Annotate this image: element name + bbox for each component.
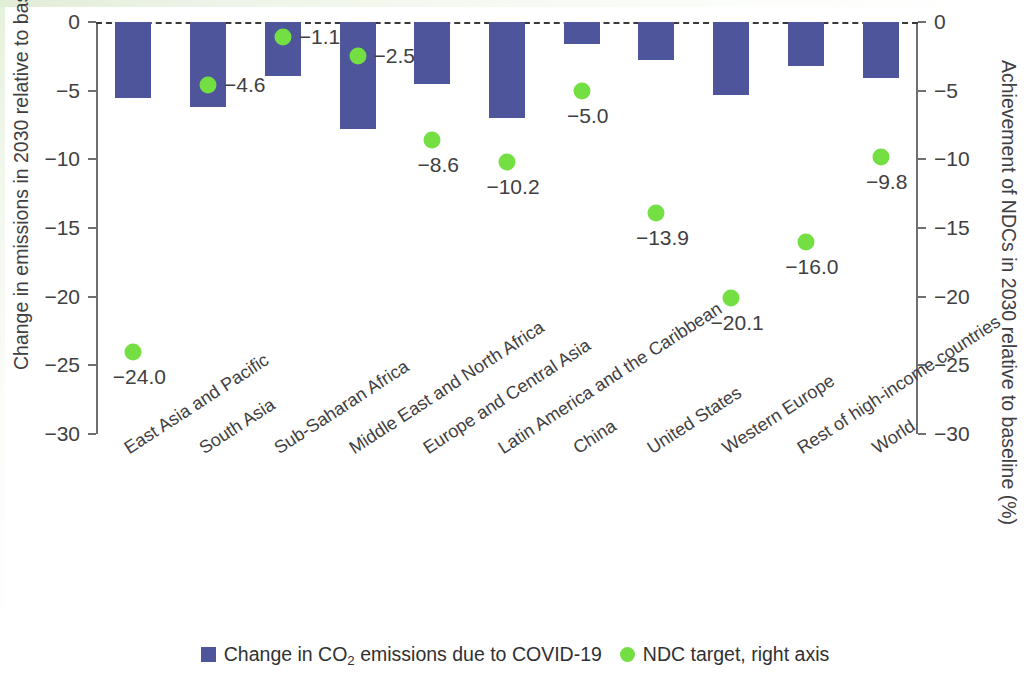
left-axis-tick xyxy=(88,90,96,92)
data-point[interactable] xyxy=(349,48,366,65)
left-axis-tick xyxy=(88,296,96,298)
left-axis-tick xyxy=(88,433,96,435)
bar[interactable] xyxy=(863,22,899,78)
right-axis-tick xyxy=(918,433,926,435)
right-axis-tick xyxy=(918,227,926,229)
legend-item-bar[interactable]: Change in CO2 emissions due to COVID-19 xyxy=(201,643,602,666)
data-point[interactable] xyxy=(723,290,740,307)
data-point-label: −5.0 xyxy=(567,105,608,126)
left-axis-spine xyxy=(96,22,98,434)
right-axis-tick xyxy=(918,296,926,298)
chart-legend: Change in CO2 emissions due to COVID-19 … xyxy=(0,643,1030,666)
bar[interactable] xyxy=(788,22,824,66)
data-point[interactable] xyxy=(648,204,665,221)
bar[interactable] xyxy=(489,22,525,118)
right-axis-tick-label: −5 xyxy=(934,80,958,101)
data-point[interactable] xyxy=(872,148,889,165)
circle-swatch-icon xyxy=(620,647,635,662)
data-point-label: −13.9 xyxy=(636,227,689,248)
plot-area: −24.0−4.6−1.1−2.5−8.6−10.2−5.0−13.9−20.1… xyxy=(96,22,918,434)
chart-figure: −24.0−4.6−1.1−2.5−8.6−10.2−5.0−13.9−20.1… xyxy=(0,0,1030,680)
data-point-label: −8.6 xyxy=(418,154,459,175)
data-point-label: −4.6 xyxy=(224,74,265,95)
data-point-label: −16.0 xyxy=(785,256,838,277)
left-axis-tick xyxy=(88,227,96,229)
bar[interactable] xyxy=(638,22,674,60)
right-axis-tick xyxy=(918,158,926,160)
page-edge-tint-left xyxy=(0,0,5,680)
left-axis-tick xyxy=(88,21,96,23)
data-point-label: −9.8 xyxy=(866,171,907,192)
data-point[interactable] xyxy=(499,154,516,171)
right-axis-tick-label: 0 xyxy=(934,11,946,32)
left-axis-title: Change in emissions in 2030 relative to … xyxy=(10,40,34,370)
data-point[interactable] xyxy=(125,343,142,360)
left-axis-tick xyxy=(88,158,96,160)
right-axis-tick-label: −10 xyxy=(934,148,970,169)
legend-item-dot-label: NDC target, right axis xyxy=(643,643,829,666)
legend-item-bar-label: Change in CO2 emissions due to COVID-19 xyxy=(224,643,602,666)
bar[interactable] xyxy=(414,22,450,84)
square-swatch-icon xyxy=(201,647,216,662)
right-axis-tick xyxy=(918,21,926,23)
data-point-label: −24.0 xyxy=(113,366,166,387)
bar[interactable] xyxy=(190,22,226,107)
data-point[interactable] xyxy=(274,29,291,46)
data-point-label: −10.2 xyxy=(486,176,539,197)
right-axis-tick-label: −20 xyxy=(934,286,970,307)
bar[interactable] xyxy=(340,22,376,129)
right-axis-tick xyxy=(918,90,926,92)
data-point[interactable] xyxy=(573,82,590,99)
bar[interactable] xyxy=(713,22,749,95)
data-point-label: −2.5 xyxy=(374,45,415,66)
left-axis-tick xyxy=(88,364,96,366)
right-axis-tick-label: −30 xyxy=(934,423,970,444)
data-point[interactable] xyxy=(424,132,441,149)
right-axis-title: Achievement of NDCs in 2030 relative to … xyxy=(996,60,1020,390)
data-point-label: −1.1 xyxy=(299,26,340,47)
right-axis-tick-label: −15 xyxy=(934,217,970,238)
bar[interactable] xyxy=(564,22,600,44)
legend-item-dot[interactable]: NDC target, right axis xyxy=(620,643,829,666)
page-edge-tint-top xyxy=(0,0,1030,7)
data-point[interactable] xyxy=(797,233,814,250)
left-axis-tick-label: −30 xyxy=(0,423,80,444)
data-point[interactable] xyxy=(200,77,217,94)
bar[interactable] xyxy=(115,22,151,98)
